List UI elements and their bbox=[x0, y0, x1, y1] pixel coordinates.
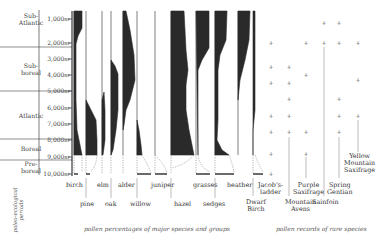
svg-text:+: + bbox=[355, 39, 360, 46]
svg-text:+: + bbox=[268, 112, 273, 119]
svg-text:+: + bbox=[268, 63, 273, 70]
label-purple-saxifrage: Purple Saxifrage bbox=[293, 182, 324, 196]
svg-text:+: + bbox=[268, 39, 273, 46]
svg-text:+: + bbox=[303, 128, 308, 135]
svg-text:+: + bbox=[336, 112, 341, 119]
tick-3000: 3,000BP bbox=[38, 55, 70, 62]
svg-text:+: + bbox=[303, 71, 308, 78]
heather-curve bbox=[238, 11, 250, 100]
svg-text:+: + bbox=[303, 150, 308, 157]
label-alder: alder bbox=[118, 182, 135, 189]
label-birch: birch bbox=[66, 182, 83, 189]
tick-9000: 9,000BP bbox=[38, 153, 70, 160]
period-label-line: Pre- bbox=[6, 160, 56, 167]
svg-text:+: + bbox=[268, 150, 273, 157]
elm-curve bbox=[102, 92, 105, 155]
svg-text:+: + bbox=[336, 19, 341, 26]
label-pine: pine bbox=[80, 201, 94, 208]
svg-text:+: + bbox=[286, 128, 291, 135]
birch-curve bbox=[74, 11, 82, 155]
svg-text:+: + bbox=[355, 76, 360, 83]
period-label-line: Atlantic bbox=[6, 112, 56, 119]
label-yellow-mountain-saxifrage: Yellow Mountain Saxifrage bbox=[344, 153, 375, 174]
label-willow: willow bbox=[130, 201, 151, 208]
tick-5000: 5,000BP bbox=[38, 87, 70, 94]
label-hazel: hazel bbox=[174, 201, 191, 208]
period-label-line: Sub- bbox=[6, 62, 56, 69]
svg-text:+: + bbox=[268, 128, 273, 135]
period-boreal: Boreal bbox=[6, 145, 56, 152]
label-juniper: juniper bbox=[151, 182, 174, 189]
svg-text:+: + bbox=[355, 112, 360, 119]
tick-7000: 7,000BP bbox=[38, 120, 70, 127]
preboreal-dashed bbox=[74, 155, 263, 174]
tick-10000: 10,000BP bbox=[38, 170, 70, 177]
caption-major-species: pollen percentages of major species and … bbox=[84, 225, 230, 232]
svg-text:+: + bbox=[286, 63, 291, 70]
sedges-curve bbox=[215, 11, 229, 155]
label-grasses: grasses bbox=[193, 182, 218, 189]
period-label-line: Boreal bbox=[6, 145, 56, 152]
svg-text:+: + bbox=[268, 170, 273, 177]
label-sainfoin: Sainfoin bbox=[312, 199, 339, 206]
tick-6000: 6,000BP bbox=[38, 104, 70, 111]
svg-text:+: + bbox=[321, 19, 326, 26]
dwarf-birch-curve bbox=[253, 11, 255, 155]
willow-curve bbox=[137, 120, 142, 155]
label-dwarf-birch: Dwarf Birch bbox=[245, 199, 267, 213]
svg-text:+: + bbox=[268, 79, 273, 86]
tick-8000: 8,000BP bbox=[38, 136, 70, 143]
tick-1000: 1,000BP bbox=[38, 15, 70, 22]
svg-text:+: + bbox=[303, 39, 308, 46]
svg-text:+: + bbox=[286, 112, 291, 119]
svg-text:+: + bbox=[286, 95, 291, 102]
svg-text:+: + bbox=[336, 95, 341, 102]
label-sedges: sedges bbox=[203, 201, 225, 208]
oak-curve bbox=[111, 60, 118, 155]
grasses-curve bbox=[196, 11, 209, 155]
label-elm: elm bbox=[97, 182, 109, 189]
label-oak: oak bbox=[105, 201, 117, 208]
label-jacobs-ladder: Jacob's- ladder bbox=[258, 182, 283, 196]
alder-curve bbox=[123, 11, 135, 130]
period-axis-label: paleo-ecological periods bbox=[2, 182, 42, 238]
caption-rare-species: pollen records of rare species bbox=[276, 225, 367, 232]
pine-curve bbox=[86, 100, 97, 155]
label-heather: heather bbox=[227, 182, 252, 189]
svg-text:+: + bbox=[336, 128, 341, 135]
svg-text:+: + bbox=[321, 39, 326, 46]
period-atlantic: Atlantic bbox=[6, 112, 56, 119]
tick-2000: 2,000BP bbox=[38, 39, 70, 46]
label-spring-gentian: Spring Gentian bbox=[327, 182, 353, 196]
svg-text:+: + bbox=[286, 79, 291, 86]
svg-text:+: + bbox=[336, 39, 341, 46]
tick-4000: 4,000BP bbox=[38, 71, 70, 78]
hazel-curve bbox=[171, 11, 194, 155]
